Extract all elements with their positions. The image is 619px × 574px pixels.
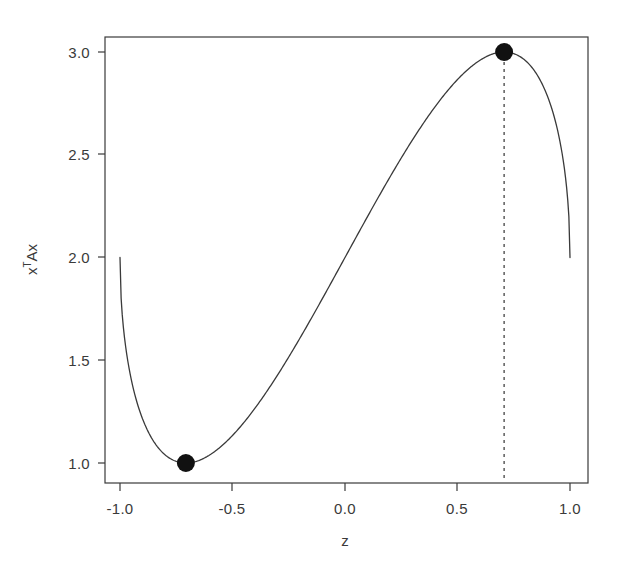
x-tick-label-3: 0.0 [315,500,375,517]
minimum-point-marker [177,454,195,472]
y-tick-label-5: 3.0 [46,44,90,61]
y-axis-title-superscript: T [22,261,33,267]
y-axis-title-tail: Ax [23,244,40,262]
y-tick-label-2: 1.5 [46,352,90,369]
y-tick-label-1: 1.0 [46,455,90,472]
y-tick-label-4: 2.5 [46,146,90,163]
data-curve [120,52,570,463]
x-axis-title: z [315,532,375,549]
chart-figure: 1.0 1.5 2.0 2.5 3.0 -1.0 -0.5 0.0 0.5 1.… [0,0,619,574]
y-tick-label-3: 2.0 [46,249,90,266]
x-tick-label-4: 0.5 [427,500,487,517]
x-tick-label-2: -0.5 [202,500,262,517]
y-axis-title: xTAx [23,220,40,300]
x-tick-label-1: -1.0 [90,500,150,517]
y-axis-ticks [98,52,105,463]
plot-box-frame [105,37,588,483]
y-axis-title-base: x [23,268,40,276]
plot-canvas [0,0,619,574]
x-axis-ticks [120,483,570,491]
x-tick-label-5: 1.0 [540,500,600,517]
maximum-point-marker [495,43,513,61]
